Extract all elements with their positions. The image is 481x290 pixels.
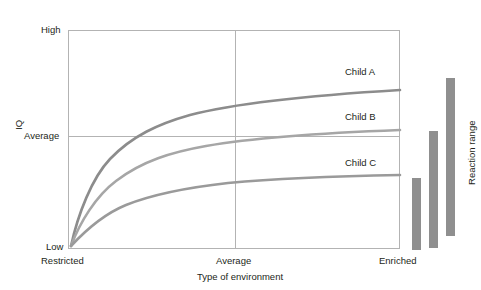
curve-label-child-c: Child C bbox=[345, 158, 376, 168]
reaction-range-title: Reaction range bbox=[467, 118, 477, 188]
x-tick-restricted: Restricted bbox=[41, 256, 84, 266]
y-tick-low: Low bbox=[46, 242, 63, 252]
reaction-range-figure: IQ High Average Low Restricted Average E… bbox=[0, 0, 481, 290]
chart-canvas bbox=[0, 0, 481, 290]
x-tick-average: Average bbox=[216, 256, 251, 266]
reaction-range-bar-child-b bbox=[429, 131, 438, 248]
x-axis-title: Type of environment bbox=[197, 272, 283, 282]
reaction-range-bar-child-a bbox=[446, 78, 455, 236]
chart-grid bbox=[68, 30, 400, 249]
x-tick-enriched: Enriched bbox=[379, 256, 417, 266]
y-axis-title: IQ bbox=[14, 110, 24, 140]
y-tick-high: High bbox=[41, 25, 61, 35]
curve-label-child-a: Child A bbox=[345, 67, 375, 77]
curve-label-child-b: Child B bbox=[345, 112, 376, 122]
y-tick-average: Average bbox=[24, 131, 59, 141]
reaction-range-bar-child-c bbox=[412, 178, 421, 250]
reaction-range-bars bbox=[412, 78, 455, 250]
